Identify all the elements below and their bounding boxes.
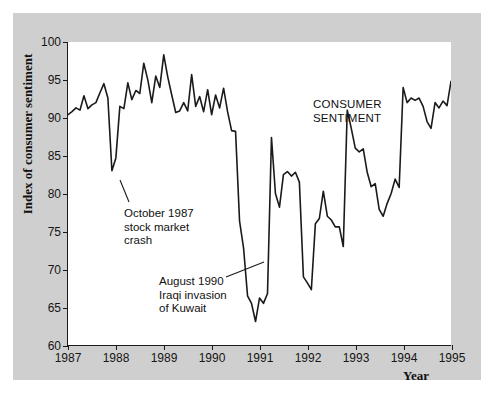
annotation-crash-line3: crash bbox=[124, 234, 194, 248]
y-tick-label: 75 bbox=[48, 225, 61, 239]
x-tick-label: 1995 bbox=[439, 351, 466, 365]
x-tick-label: 1992 bbox=[295, 351, 322, 365]
x-tick-mark bbox=[308, 345, 309, 350]
y-tick-mark bbox=[63, 232, 68, 233]
y-tick-label: 85 bbox=[48, 149, 61, 163]
y-axis-title: Index of consumer sentiment bbox=[19, 42, 37, 346]
annotation-august-1990-kuwait: August 1990 Iraqi invasion of Kuwait bbox=[159, 275, 227, 316]
x-tick-label: 1987 bbox=[55, 351, 82, 365]
plot-area: 6065707580859095100 19871988198919901991… bbox=[67, 42, 451, 346]
series-label-line1: CONSUMER bbox=[313, 97, 382, 111]
y-tick-label: 90 bbox=[48, 111, 61, 125]
x-tick-label: 1989 bbox=[151, 351, 178, 365]
annotation-crash-line2: stock market bbox=[124, 221, 194, 235]
x-tick-mark bbox=[452, 345, 453, 350]
x-tick-label: 1991 bbox=[247, 351, 274, 365]
y-tick-label: 100 bbox=[41, 35, 61, 49]
y-tick-mark bbox=[63, 308, 68, 309]
y-tick-mark bbox=[63, 194, 68, 195]
x-tick-mark bbox=[356, 345, 357, 350]
y-axis-title-text: Index of consumer sentiment bbox=[20, 54, 36, 214]
annotation-kuwait-line1: August 1990 bbox=[159, 275, 227, 289]
y-tick-mark bbox=[63, 80, 68, 81]
y-tick-label: 65 bbox=[48, 301, 61, 315]
x-axis-title: Year bbox=[403, 368, 429, 384]
sentiment-line-series bbox=[68, 42, 451, 345]
annotation-crash-line1: October 1987 bbox=[124, 207, 194, 221]
annotation-kuwait-line2: Iraqi invasion bbox=[159, 289, 227, 303]
x-tick-mark bbox=[164, 345, 165, 350]
y-tick-mark bbox=[63, 156, 68, 157]
y-tick-label: 95 bbox=[48, 73, 61, 87]
series-label-consumer-sentiment: CONSUMER SENTIMENT bbox=[313, 97, 382, 125]
x-tick-label: 1988 bbox=[103, 351, 130, 365]
series-label-line2: SENTIMENT bbox=[313, 111, 382, 125]
y-tick-label: 70 bbox=[48, 263, 61, 277]
x-tick-mark bbox=[68, 345, 69, 350]
y-tick-mark bbox=[63, 270, 68, 271]
annotation-kuwait-line3: of Kuwait bbox=[159, 302, 227, 316]
x-tick-label: 1993 bbox=[343, 351, 370, 365]
y-tick-label: 80 bbox=[48, 187, 61, 201]
x-tick-mark bbox=[212, 345, 213, 350]
y-tick-mark bbox=[63, 118, 68, 119]
y-tick-mark bbox=[63, 42, 68, 43]
figure-panel: Index of consumer sentiment Year 6065707… bbox=[13, 13, 481, 380]
x-tick-mark bbox=[404, 345, 405, 350]
annotation-october-1987-crash: October 1987 stock market crash bbox=[124, 207, 194, 248]
x-tick-mark bbox=[260, 345, 261, 350]
x-tick-label: 1994 bbox=[391, 351, 418, 365]
x-tick-label: 1990 bbox=[199, 351, 226, 365]
x-tick-mark bbox=[116, 345, 117, 350]
